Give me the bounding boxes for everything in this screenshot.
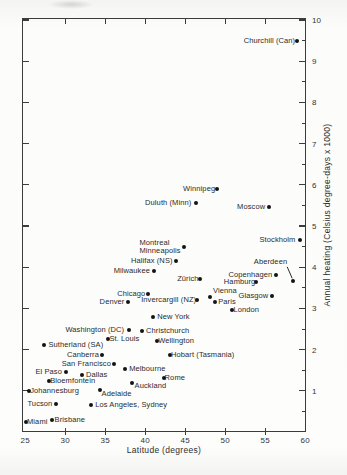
point-label: Brisbane [55,416,85,425]
y-tick-left [22,267,29,268]
point-label: London [233,306,259,315]
y-tick-right [299,308,306,309]
y-tick-label: 4 [312,263,316,272]
point-label: Rome [165,374,185,383]
scatter-figure: 253035404550556012345678910Churchill (Ca… [0,0,347,475]
data-point-dot [291,279,295,283]
y-tick-right [299,102,306,103]
x-tick-bottom [185,428,186,435]
data-point-dot [182,245,186,249]
point-label: Duluth (Minn) [145,199,191,208]
point-label: Miami [27,418,48,427]
x-tick-label: 55 [261,436,270,445]
x-tick-label: 60 [301,436,310,445]
x-tick-top [145,18,146,24]
x-tick-label: 35 [101,436,110,445]
point-label: New York [157,312,190,321]
y-tick-label: 5 [312,222,316,231]
point-label: St. Louis [109,335,139,344]
y-minor-tick [302,205,306,206]
data-point-dot [194,201,198,205]
point-label: Christchurch [146,327,189,336]
y-tick-right [299,143,306,144]
y-tick-left [22,225,29,226]
y-minor-tick [302,123,306,124]
x-tick-bottom [265,428,266,435]
y-minor-tick [302,411,306,412]
x-tick-top [265,18,266,24]
x-tick-label: 50 [221,436,230,445]
y-tick-right [299,61,306,62]
y-tick-left [22,102,29,103]
point-label: Glasgow [239,292,269,301]
data-point-dot [50,418,54,422]
y-tick-right [299,225,306,226]
y-minor-tick [302,370,306,371]
y-tick-label: 9 [312,57,316,66]
data-point-dot [267,205,271,209]
scan-artifact [48,0,94,9]
y-tick-left [22,61,29,62]
y-tick-left [22,349,29,350]
point-label: Invercargill (NZ) [141,296,196,305]
data-point-dot [112,362,116,366]
point-label: Winnipeg [183,185,215,194]
point-label: Aberdeen [254,258,287,267]
y-tick-label: 6 [312,180,316,189]
data-point-dot [64,370,68,374]
point-label: Moscow [237,203,265,212]
data-point-dot [295,39,299,43]
y-tick-right [299,184,306,185]
data-point-dot [100,353,104,357]
data-point-dot [215,187,219,191]
y-tick-left [22,19,29,20]
x-tick-label: 30 [61,436,70,445]
point-label: Halifax (NS) [131,257,173,266]
y-minor-tick [302,81,306,82]
y-minor-tick [302,40,306,41]
x-tick-bottom [225,428,226,435]
y-tick-right [299,19,306,20]
x-tick-label: 45 [181,436,190,445]
y-minor-tick [302,164,306,165]
x-tick-top [65,18,66,24]
data-point-dot [42,343,46,347]
point-label: Stockholm [259,236,295,245]
point-label: Melbourne [129,365,165,374]
y-tick-right [299,390,306,391]
x-tick-bottom [105,428,106,435]
point-label: Adelaide [102,390,132,399]
point-label: Hamburg [224,277,256,286]
data-point-dot [152,269,156,273]
y-minor-tick [302,246,306,247]
point-label: Wellington [158,337,194,346]
data-point-dot [174,259,178,263]
point-label: Hobart (Tasmania) [171,351,234,360]
y-tick-label: 1 [312,386,316,395]
x-tick-top [225,18,226,24]
y-tick-label: 2 [312,345,316,354]
y-tick-left [22,184,29,185]
x-tick-top [105,18,106,24]
data-point-dot [298,238,302,242]
point-label: Bloemfontein [50,377,95,386]
data-point-dot [140,329,144,333]
point-label: San Francisco [62,360,111,369]
x-tick-bottom [145,428,146,435]
point-label: Milwaukee [114,267,150,276]
data-point-dot [54,402,58,406]
data-point-dot [130,381,134,385]
y-tick-right [299,267,306,268]
data-point-dot [274,273,278,277]
point-label: Vienna [213,287,237,296]
data-point-dot [151,315,155,319]
data-point-dot [208,295,212,299]
y-tick-label: 10 [312,16,321,25]
x-tick-bottom [65,428,66,435]
point-label: Sutherland (SA) [48,341,103,350]
x-tick-label: 25 [21,436,30,445]
point-label: Zürich [177,275,198,284]
y-tick-label: 3 [312,304,316,313]
y-tick-label: 7 [312,139,316,148]
data-point-dot [270,294,274,298]
